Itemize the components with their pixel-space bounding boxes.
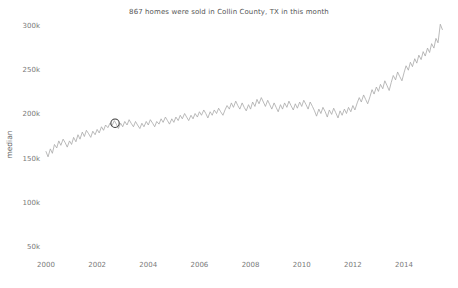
chart-page: 867 homes were sold in Collin County, TX… — [0, 0, 458, 288]
plot-svg — [0, 0, 458, 288]
plot-area — [0, 0, 458, 288]
median-price-line — [46, 24, 442, 157]
highlight-point-marker[interactable] — [111, 119, 119, 127]
